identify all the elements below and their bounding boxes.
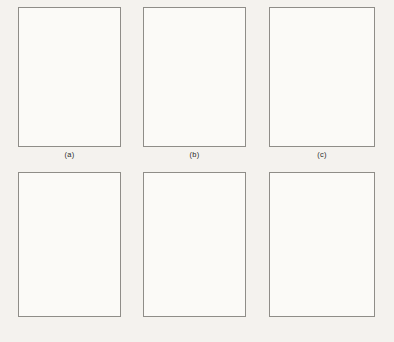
panel-f-frame — [269, 172, 375, 317]
panel-b-frame — [143, 7, 246, 147]
panel-a-caption: (a) — [18, 150, 121, 159]
panel-d-frame — [18, 172, 121, 317]
figure-wave-refraction-diagrams: Wave front (a) — [0, 0, 394, 342]
panel-a-frame — [18, 7, 121, 147]
panel-b: Depth contours (b) — [143, 7, 246, 147]
panel-e-frame — [143, 172, 246, 317]
panel-c: (c) — [269, 7, 375, 147]
panel-a: Wave front (a) — [18, 7, 121, 147]
panel-d: (d) — [18, 172, 121, 317]
panel-c-frame — [269, 7, 375, 147]
panel-e: (e) — [143, 172, 246, 317]
panel-b-caption: (b) — [143, 150, 246, 159]
panel-f: (f) — [269, 172, 375, 317]
panel-c-caption: (c) — [269, 150, 375, 159]
